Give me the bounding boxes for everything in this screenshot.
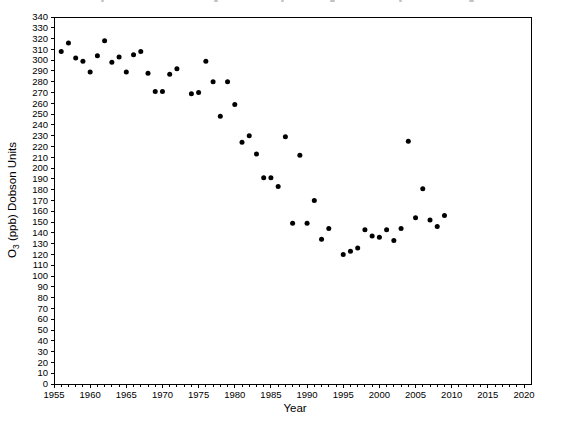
y-tick-label: 70 xyxy=(37,303,48,314)
y-tick-label: 140 xyxy=(32,227,48,238)
x-tick-label: 2015 xyxy=(477,389,498,400)
data-points xyxy=(59,38,447,257)
x-tick-label: 1955 xyxy=(43,389,64,400)
data-point xyxy=(124,70,129,75)
y-tick-label: 250 xyxy=(32,108,48,119)
data-point xyxy=(174,66,179,71)
data-point xyxy=(391,238,396,243)
y-tick-label: 260 xyxy=(32,98,48,109)
data-point xyxy=(225,79,230,84)
y-tick-label: 60 xyxy=(37,313,48,324)
y-tick-label: 0 xyxy=(43,378,48,389)
data-point xyxy=(59,49,64,54)
data-point xyxy=(189,91,194,96)
data-point xyxy=(290,221,295,226)
data-point xyxy=(66,40,71,45)
y-tick-label: 50 xyxy=(37,324,48,335)
data-point xyxy=(435,224,440,229)
y-tick-label: 110 xyxy=(33,259,48,270)
x-tick-label: 2000 xyxy=(369,389,390,400)
data-point xyxy=(131,52,136,57)
y-tick-label: 240 xyxy=(32,119,48,130)
y-tick-label: 300 xyxy=(32,54,48,65)
y-tick-label: 230 xyxy=(32,130,48,141)
data-point xyxy=(196,90,201,95)
data-point xyxy=(211,79,216,84)
data-point xyxy=(138,49,143,54)
y-tick-label: 220 xyxy=(32,141,48,152)
data-point xyxy=(146,71,151,76)
data-point xyxy=(109,60,114,65)
data-point xyxy=(406,139,411,144)
data-point xyxy=(102,38,107,43)
data-point xyxy=(117,54,122,59)
x-tick-label: 1985 xyxy=(260,389,281,400)
data-point xyxy=(355,245,360,250)
data-point xyxy=(370,234,375,239)
y-tick-label: 200 xyxy=(32,162,48,173)
data-point xyxy=(442,213,447,218)
y-tick-label: 130 xyxy=(32,238,48,249)
x-tick-label: 2010 xyxy=(441,389,462,400)
y-tick-label: 340 xyxy=(32,11,48,22)
figure-canvas: 1955196019651970197519801985199019952000… xyxy=(0,0,567,428)
y-tick-label: 210 xyxy=(32,152,48,163)
data-point xyxy=(167,72,172,77)
y-tick-label: 150 xyxy=(32,216,48,227)
data-point xyxy=(312,198,317,203)
data-point xyxy=(232,102,237,107)
data-point xyxy=(305,221,310,226)
data-point xyxy=(254,152,259,157)
y-tick-label: 80 xyxy=(37,292,48,303)
data-point xyxy=(261,175,266,180)
data-point xyxy=(362,227,367,232)
y-tick-label: 20 xyxy=(37,357,48,368)
data-point xyxy=(297,153,302,158)
data-point xyxy=(348,249,353,254)
data-point xyxy=(203,59,208,64)
y-tick-label: 90 xyxy=(37,281,48,292)
y-tick-label: 330 xyxy=(32,22,48,33)
data-point xyxy=(247,133,252,138)
y-tick-label: 270 xyxy=(32,87,48,98)
x-ticks xyxy=(54,384,524,388)
y-tick-label: 310 xyxy=(32,44,48,55)
data-point xyxy=(399,226,404,231)
y-tick-label: 10 xyxy=(37,367,48,378)
data-point xyxy=(384,227,389,232)
data-point xyxy=(80,59,85,64)
x-tick-label: 1970 xyxy=(152,389,173,400)
y-axis-title: O3 (ppb) Dobson Units xyxy=(6,142,21,258)
data-point xyxy=(73,56,78,61)
data-point xyxy=(377,235,382,240)
x-tick-labels: 1955196019651970197519801985199019952000… xyxy=(43,389,534,400)
data-point xyxy=(283,134,288,139)
y-tick-labels: 0102030405060708090100110120130140150160… xyxy=(32,11,48,389)
x-tick-label: 1960 xyxy=(80,389,101,400)
data-point xyxy=(240,140,245,145)
y-tick-label: 190 xyxy=(32,173,48,184)
y-tick-label: 160 xyxy=(32,205,48,216)
y-tick-label: 100 xyxy=(32,270,48,281)
y-tick-label: 280 xyxy=(32,76,48,87)
data-point xyxy=(218,114,223,119)
y-tick-label: 180 xyxy=(32,184,48,195)
data-point xyxy=(420,186,425,191)
x-tick-label: 2020 xyxy=(513,389,534,400)
y-tick-label: 40 xyxy=(37,335,48,346)
ozone-scatter-chart: 1955196019651970197519801985199019952000… xyxy=(0,0,567,428)
y-tick-label: 170 xyxy=(32,195,48,206)
data-point xyxy=(428,217,433,222)
y-tick-label: 320 xyxy=(32,33,48,44)
data-point xyxy=(160,89,165,94)
data-point xyxy=(153,89,158,94)
data-point xyxy=(341,252,346,257)
y-tick-label: 290 xyxy=(32,65,48,76)
x-tick-label: 1990 xyxy=(297,389,318,400)
x-tick-label: 1980 xyxy=(224,389,245,400)
data-point xyxy=(268,175,273,180)
y-tick-label: 30 xyxy=(37,346,48,357)
x-tick-label: 1975 xyxy=(188,389,209,400)
data-point xyxy=(88,70,93,75)
data-point xyxy=(319,237,324,242)
